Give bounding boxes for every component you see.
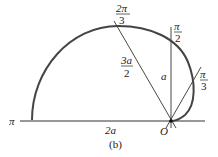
label-3a2-den: 2 (124, 67, 130, 79)
label-origin: O (160, 125, 168, 137)
figure-caption: (b) (109, 138, 122, 151)
label-pi2-den: 2 (175, 32, 181, 44)
label-pi: π (9, 115, 15, 127)
label-pi2-num: π (174, 20, 180, 32)
label-2pi3-den: 3 (119, 14, 125, 26)
label-2pi3-num: 2π (116, 2, 128, 14)
label-2a: 2a (105, 124, 117, 136)
label-pi3-num: π (200, 68, 206, 80)
label-a: a (161, 70, 167, 82)
label-pi3-den: 3 (201, 80, 207, 92)
label-3a2-num: 3a (120, 54, 133, 66)
origin-point (169, 119, 173, 123)
polar-curve (32, 26, 194, 121)
polar-curve-diagram: π 2π 3 π 2 π 3 3a 2 a 2a O (b) (0, 0, 218, 157)
